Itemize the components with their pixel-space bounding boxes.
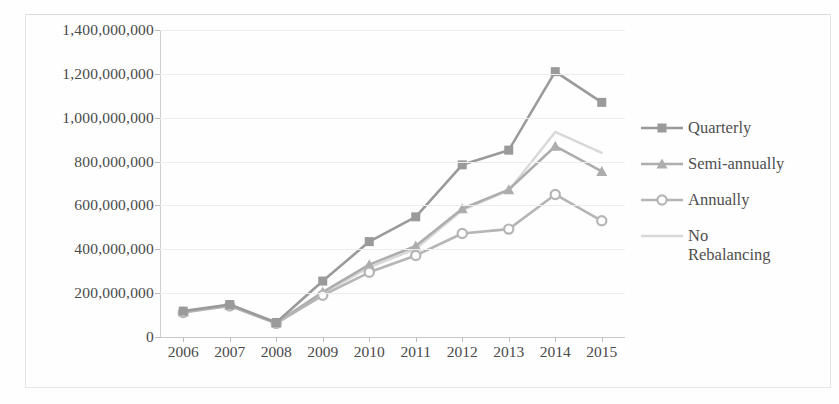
legend-item-annually[interactable]: Annually [640,190,836,209]
x-axis: 2006200720082009201020112012201320142015 [160,344,625,366]
x-tick-mark [369,337,370,342]
data-point-marker [318,277,327,286]
legend-item-semi-annually[interactable]: Semi-annually [640,154,836,173]
gridline [160,249,625,250]
data-point-marker [225,300,234,309]
gridline [160,30,625,31]
x-tick-label: 2010 [344,344,394,360]
y-axis: 1,400,000,0001,200,000,0001,000,000,0008… [28,22,154,347]
y-tick-label: 0 [146,329,154,345]
series-semi-annually [178,141,608,328]
data-point-marker [272,318,281,327]
data-point-marker [504,225,513,234]
x-tick-label: 2013 [484,344,534,360]
x-tick-mark [555,337,556,342]
x-tick-label: 2011 [391,344,441,360]
gridline [160,162,625,163]
legend-line-icon [640,228,684,244]
y-tick-mark [155,249,160,250]
gridline [160,293,625,294]
legend-circle-icon [640,192,684,208]
gridline [160,74,625,75]
x-tick-mark [602,337,603,342]
legend-label: Semi-annually [684,154,784,173]
y-tick-label: 200,000,000 [74,285,154,301]
legend-label: Annually [684,190,749,209]
x-tick-label: 2007 [205,344,255,360]
y-tick-mark [155,337,160,338]
y-tick-mark [155,205,160,206]
data-point-marker [550,141,561,151]
x-tick-mark [462,337,463,342]
data-point-marker [504,146,513,155]
x-tick-label: 2008 [251,344,301,360]
x-tick-label: 2009 [298,344,348,360]
data-point-marker [179,307,188,316]
legend-triangle-icon [640,156,684,172]
legend-square-icon [640,120,684,136]
y-tick-label: 800,000,000 [74,154,154,170]
x-tick-mark [509,337,510,342]
plot-area [160,30,625,337]
x-tick-label: 2012 [437,344,487,360]
data-point-marker [411,212,420,221]
data-point-marker [596,166,607,176]
x-tick-label: 2014 [530,344,580,360]
y-tick-mark [155,30,160,31]
series-line [183,146,602,323]
series-line [183,72,602,323]
y-tick-mark [155,74,160,75]
legend-label: No Rebalancing [684,226,770,264]
data-point-marker [365,268,374,277]
data-point-marker [411,251,420,260]
series-layer [160,30,625,341]
data-point-marker [458,229,467,238]
legend-item-no-rebalancing[interactable]: No Rebalancing [640,226,836,264]
legend-label: Quarterly [684,118,751,137]
y-tick-label: 1,200,000,000 [62,66,154,82]
legend-item-quarterly[interactable]: Quarterly [640,118,836,137]
x-tick-mark [276,337,277,342]
line-chart: 1,400,000,0001,200,000,0001,000,000,0008… [0,0,839,404]
data-point-marker [365,237,374,246]
data-point-marker [597,216,606,225]
series-quarterly [179,67,607,327]
gridline [160,118,625,119]
x-tick-mark [416,337,417,342]
chart-legend: QuarterlySemi-annuallyAnnuallyNo Rebalan… [640,118,836,281]
data-point-marker [597,98,606,107]
x-tick-label: 2006 [158,344,208,360]
y-tick-mark [155,118,160,119]
x-tick-mark [183,337,184,342]
y-tick-mark [155,293,160,294]
y-tick-label: 1,000,000,000 [62,110,154,126]
data-point-marker [318,291,327,300]
x-tick-mark [323,337,324,342]
y-tick-label: 400,000,000 [74,241,154,257]
y-tick-mark [155,162,160,163]
y-tick-label: 1,400,000,000 [62,22,154,38]
y-tick-label: 600,000,000 [74,197,154,213]
x-tick-mark [230,337,231,342]
gridline [160,205,625,206]
x-tick-label: 2015 [577,344,627,360]
data-point-marker [551,190,560,199]
